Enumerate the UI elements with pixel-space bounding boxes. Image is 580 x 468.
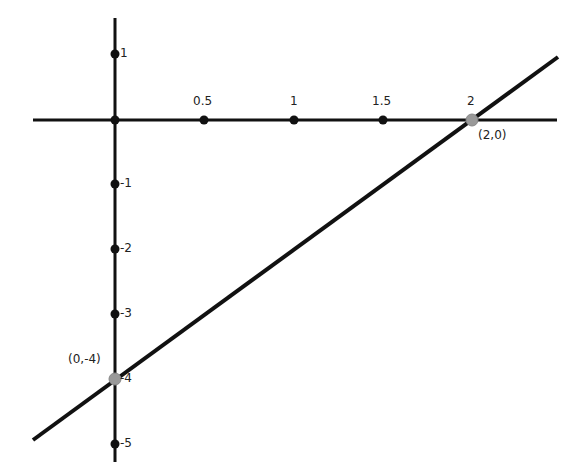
x-tick-dot-0.5 xyxy=(200,116,209,125)
y-tick-label-neg3: -3 xyxy=(120,306,132,320)
y-tick-label-neg5: -5 xyxy=(120,436,132,450)
x-intercept-point xyxy=(466,114,478,126)
y-tick-label-1: 1 xyxy=(120,46,128,60)
x-tick-dot-1 xyxy=(290,116,299,125)
y-tick-dot-neg2 xyxy=(111,245,120,254)
x-tick-label-1.5: 1.5 xyxy=(372,94,391,108)
y-tick-dot-neg1 xyxy=(111,180,120,189)
x-tick-dot-1.5 xyxy=(379,116,388,125)
y-intercept-label: (0,-4) xyxy=(68,352,101,366)
coordinate-plot xyxy=(0,0,580,468)
x-tick-label-0.5: 0.5 xyxy=(193,94,212,108)
y-tick-dot-1 xyxy=(111,50,120,59)
y-tick-label-neg1: -1 xyxy=(120,176,132,190)
y-tick-dot-neg5 xyxy=(111,440,120,449)
y-tick-label-neg2: -2 xyxy=(120,241,132,255)
y-tick-label-neg4: -4 xyxy=(120,371,132,385)
y-tick-dot-neg3 xyxy=(111,310,120,319)
x-tick-label-2: 2 xyxy=(467,94,475,108)
x-intercept-label: (2,0) xyxy=(478,128,506,142)
origin-dot xyxy=(111,116,120,125)
x-tick-label-1: 1 xyxy=(290,94,298,108)
